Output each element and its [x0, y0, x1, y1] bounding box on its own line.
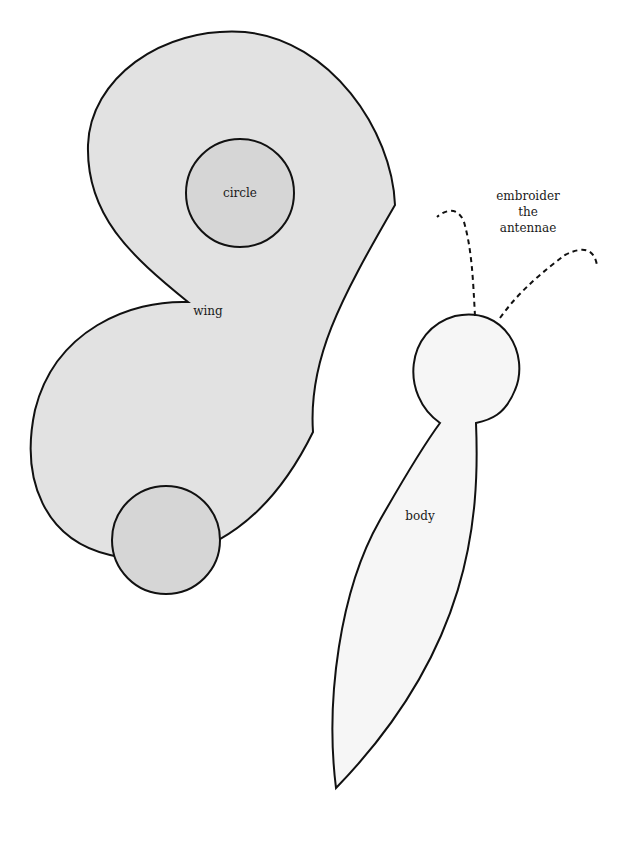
circle-label: circle: [223, 186, 257, 200]
antennae-label-line2: the: [518, 205, 538, 219]
right-antenna: [500, 250, 597, 318]
body-shape: [333, 314, 520, 788]
left-antenna: [437, 211, 475, 316]
lower-wing-circle: [112, 486, 220, 594]
wing-label: wing: [193, 304, 223, 318]
antennae-label-line3: antennae: [500, 221, 557, 235]
body-label: body: [405, 509, 435, 523]
wing-shape: [31, 32, 395, 560]
antennae-label-line1: embroider: [496, 189, 560, 203]
butterfly-diagram: circle wing body embroider the antennae: [0, 0, 619, 862]
